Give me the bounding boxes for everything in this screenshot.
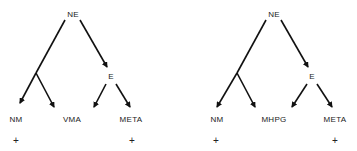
right-meta-plus-marker: + [332,135,338,146]
left-diagram-arrows [20,20,130,107]
right-nm-plus-marker: + [213,135,219,146]
right-root-label: NE [268,10,280,19]
right-intermediate-label: E [309,72,315,81]
left-product-vma-label: VMA [63,115,81,124]
left-product-meta-label: META [120,115,143,124]
left-product-nm-label: NM [9,115,22,124]
left-nm-plus-marker: + [13,135,19,146]
diagram-arrows [0,0,357,151]
left-intermediate-label: E [108,72,114,81]
left-meta-plus-marker: + [129,135,135,146]
right-product-mhpg-label: MHPG [261,115,286,124]
right-diagram-arrows [217,20,332,107]
right-product-nm-label: NM [210,115,223,124]
right-product-meta-label: META [324,115,347,124]
left-root-label: NE [67,10,79,19]
